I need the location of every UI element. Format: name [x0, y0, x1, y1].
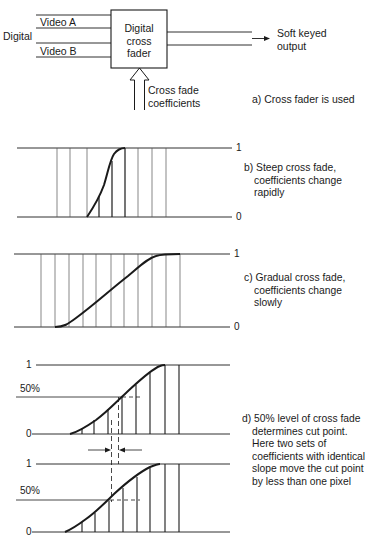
- output-label-line-2: output: [277, 40, 327, 53]
- fade-curve-lower: [65, 464, 160, 532]
- panel-b-graph: [17, 148, 232, 217]
- panel-c-level-0: 0: [234, 321, 240, 334]
- box-label-line-2: cross: [111, 35, 167, 48]
- panel-c-graph: [14, 254, 230, 327]
- caption-b-line-1: b) Steep cross fade,: [244, 162, 336, 173]
- panel-d-upper-graph: [16, 365, 230, 434]
- cross-fader-box-label: Digital cross fader: [111, 22, 167, 60]
- caption-d-line-1: d) 50% level of cross fade: [242, 413, 360, 424]
- panel-d-upper-level-50: 50%: [20, 383, 40, 396]
- output-label: Soft keyed output: [277, 27, 327, 52]
- caption-d-line-4: coefficients with identical: [242, 451, 365, 464]
- digital-input-label: Digital: [3, 30, 32, 43]
- panel-d-lower-level-1: 1: [26, 458, 32, 471]
- fade-curve-upper: [70, 365, 165, 434]
- panel-d-lower-level-0: 0: [26, 526, 32, 539]
- gradual-fade-curve: [55, 254, 180, 327]
- steep-fade-curve: [87, 148, 125, 217]
- caption-a: a) Cross fader is used: [252, 93, 355, 106]
- caption-b: b) Steep cross fade, coefficients change…: [244, 162, 342, 200]
- panel-d-upper-level-0: 0: [26, 428, 32, 441]
- panel-d-upper-level-1: 1: [26, 359, 32, 372]
- caption-c-line-3: slowly: [244, 297, 345, 310]
- caption-d-line-6: by less than one pixel: [242, 476, 365, 489]
- coefficient-bars: [82, 365, 179, 434]
- cut-point-markers: [88, 397, 142, 502]
- coefficient-bars: [82, 464, 179, 532]
- panel-b-level-1: 1: [236, 142, 242, 155]
- control-label-line-2: coefficients: [148, 97, 200, 110]
- box-label-line-3: fader: [111, 47, 167, 60]
- video-a-label: Video A: [40, 16, 76, 29]
- control-label-line-1: Cross fade: [148, 84, 200, 97]
- right-arrow-head: [119, 448, 125, 453]
- panel-b-level-0: 0: [236, 211, 242, 224]
- panel-d-lower-level-50: 50%: [20, 485, 40, 498]
- caption-c: c) Gradual cross fade, coefficients chan…: [244, 272, 345, 310]
- caption-d: d) 50% level of cross fade determines cu…: [242, 413, 365, 489]
- caption-b-line-3: rapidly: [244, 187, 342, 200]
- left-arrow-head: [105, 448, 111, 453]
- output-label-line-1: Soft keyed: [277, 27, 327, 40]
- control-label: Cross fade coefficients: [148, 84, 200, 109]
- caption-d-line-5: slope move the cut point: [242, 463, 365, 476]
- coefficient-hollow-arrow: [130, 68, 149, 110]
- panel-d-lower-graph: [16, 464, 230, 532]
- video-b-label: Video B: [40, 45, 77, 58]
- panel-c-level-1: 1: [234, 248, 240, 261]
- caption-b-line-2: coefficients change: [244, 175, 342, 188]
- caption-c-line-2: coefficients change: [244, 285, 345, 298]
- box-label-line-1: Digital: [111, 22, 167, 35]
- caption-d-line-2: determines cut point.: [242, 426, 365, 439]
- caption-c-line-1: c) Gradual cross fade,: [244, 272, 345, 283]
- caption-d-line-3: Here two sets of: [242, 438, 365, 451]
- output-arrow-head: [264, 36, 270, 41]
